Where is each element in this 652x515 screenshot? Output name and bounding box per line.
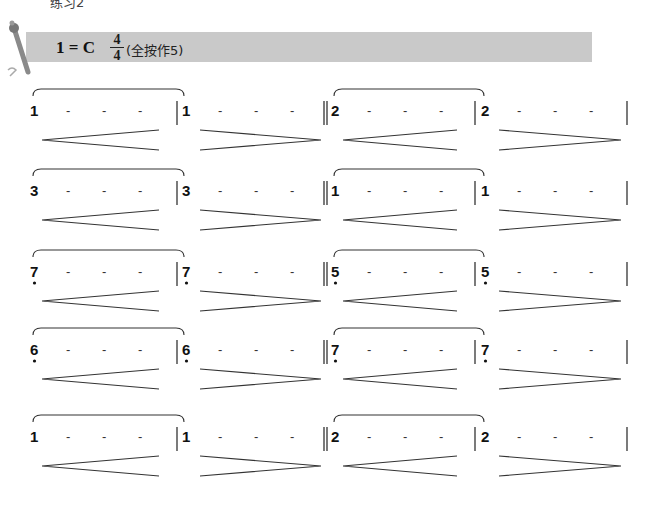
tie-arc xyxy=(33,89,184,96)
duration-dash: - xyxy=(254,103,258,118)
duration-dash: - xyxy=(290,429,294,444)
note-number: 7 xyxy=(182,263,190,280)
duration-dash: - xyxy=(367,429,371,444)
note-number: 1 xyxy=(30,428,38,445)
tie-arc xyxy=(334,415,484,422)
low-octave-dot xyxy=(334,359,337,362)
note-number: 7 xyxy=(331,341,339,358)
note-number: 7 xyxy=(481,341,489,358)
duration-dash: - xyxy=(102,429,106,444)
decrescendo-hairpin xyxy=(200,369,321,389)
decrescendo-hairpin xyxy=(499,130,621,150)
duration-dash: - xyxy=(367,264,371,279)
notation-row: 3---3---1---1--- xyxy=(30,169,627,230)
duration-dash: - xyxy=(517,429,521,444)
crescendo-hairpin xyxy=(42,369,159,389)
note-number: 6 xyxy=(182,341,190,358)
tie-arc xyxy=(33,328,184,335)
duration-dash: - xyxy=(138,264,142,279)
duration-dash: - xyxy=(218,183,222,198)
duration-dash: - xyxy=(138,183,142,198)
duration-dash: - xyxy=(517,183,521,198)
duration-dash: - xyxy=(254,183,258,198)
duration-dash: - xyxy=(66,183,70,198)
duration-dash: - xyxy=(439,103,443,118)
tie-arc xyxy=(334,169,484,176)
crescendo-hairpin xyxy=(42,456,159,476)
duration-dash: - xyxy=(553,264,557,279)
tie-arc xyxy=(334,89,484,96)
tie-arc xyxy=(33,415,184,422)
tie-arc xyxy=(33,169,184,176)
duration-dash: - xyxy=(553,183,557,198)
duration-dash: - xyxy=(589,264,593,279)
crescendo-hairpin xyxy=(343,369,457,389)
duration-dash: - xyxy=(290,264,294,279)
duration-dash: - xyxy=(367,103,371,118)
duration-dash: - xyxy=(517,264,521,279)
duration-dash: - xyxy=(218,342,222,357)
crescendo-hairpin xyxy=(343,456,457,476)
duration-dash: - xyxy=(439,183,443,198)
duration-dash: - xyxy=(589,103,593,118)
note-number: 3 xyxy=(30,182,38,199)
note-number: 1 xyxy=(481,182,489,199)
decrescendo-hairpin xyxy=(499,369,621,389)
duration-dash: - xyxy=(553,342,557,357)
duration-dash: - xyxy=(517,342,521,357)
duration-dash: - xyxy=(138,342,142,357)
decrescendo-hairpin xyxy=(200,456,321,476)
duration-dash: - xyxy=(403,264,407,279)
note-number: 3 xyxy=(182,182,190,199)
low-octave-dot xyxy=(33,359,36,362)
duration-dash: - xyxy=(290,103,294,118)
tie-arc xyxy=(334,250,484,257)
crescendo-hairpin xyxy=(42,210,159,230)
duration-dash: - xyxy=(439,429,443,444)
duration-dash: - xyxy=(138,103,142,118)
notation-row: 6---6---7---7--- xyxy=(30,328,627,389)
duration-dash: - xyxy=(102,342,106,357)
duration-dash: - xyxy=(589,342,593,357)
duration-dash: - xyxy=(290,342,294,357)
duration-dash: - xyxy=(589,429,593,444)
notation-row: 1---1---2---2--- xyxy=(30,89,627,150)
duration-dash: - xyxy=(403,103,407,118)
note-number: 1 xyxy=(30,102,38,119)
note-number: 2 xyxy=(331,102,339,119)
duration-dash: - xyxy=(218,429,222,444)
crescendo-hairpin xyxy=(343,291,457,311)
duration-dash: - xyxy=(254,429,258,444)
duration-dash: - xyxy=(66,342,70,357)
notation-score: 1---1---2---2---3---3---1---1---7---7---… xyxy=(0,0,652,515)
note-number: 1 xyxy=(182,102,190,119)
duration-dash: - xyxy=(403,429,407,444)
notation-row: 1---1---2---2--- xyxy=(30,415,627,476)
decrescendo-hairpin xyxy=(499,210,621,230)
duration-dash: - xyxy=(439,342,443,357)
crescendo-hairpin xyxy=(42,130,159,150)
duration-dash: - xyxy=(553,429,557,444)
low-octave-dot xyxy=(484,281,487,284)
duration-dash: - xyxy=(553,103,557,118)
duration-dash: - xyxy=(254,264,258,279)
note-number: 2 xyxy=(331,428,339,445)
duration-dash: - xyxy=(517,103,521,118)
tie-arc xyxy=(334,328,484,335)
decrescendo-hairpin xyxy=(200,291,321,311)
low-octave-dot xyxy=(185,281,188,284)
duration-dash: - xyxy=(367,183,371,198)
note-number: 5 xyxy=(331,263,339,280)
tie-arc xyxy=(33,250,184,257)
low-octave-dot xyxy=(33,281,36,284)
duration-dash: - xyxy=(102,264,106,279)
decrescendo-hairpin xyxy=(200,210,321,230)
crescendo-hairpin xyxy=(343,130,457,150)
note-number: 7 xyxy=(30,263,38,280)
note-number: 1 xyxy=(331,182,339,199)
low-octave-dot xyxy=(484,359,487,362)
duration-dash: - xyxy=(254,342,258,357)
duration-dash: - xyxy=(102,103,106,118)
duration-dash: - xyxy=(403,183,407,198)
decrescendo-hairpin xyxy=(499,456,621,476)
